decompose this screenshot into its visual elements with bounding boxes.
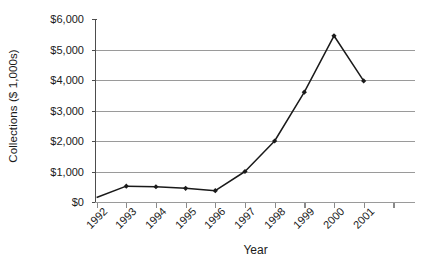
data-point-marker [183,186,188,191]
x-axis-tick-labels: 1992199319941995199619971998199920002001 [96,205,426,245]
x-axis-line [95,202,415,203]
y-axis-tick-label: $5,000 [50,44,84,56]
y-axis-title-text: Collections ($ 1,000s) [7,49,19,162]
plot-area [96,19,415,202]
y-axis-tick-label: $0 [72,196,84,208]
y-axis-tick-label: $3,000 [50,105,84,117]
line-chart: Collections ($ 1,000s) $0$1,000$2,000$3,… [0,0,437,267]
x-axis-title-text: Year [243,243,267,257]
data-point-marker [153,184,158,189]
y-axis-title: Collections ($ 1,000s) [0,0,26,212]
y-axis-tick-label: $6,000 [50,13,84,25]
data-series-collections [96,19,415,202]
data-point-marker [124,184,129,189]
y-axis-tick-label: $4,000 [50,74,84,86]
x-axis-title: Year [96,243,415,257]
series-line [97,36,364,198]
y-axis-tick-label: $1,000 [50,166,84,178]
y-axis-tick-labels: $0$1,000$2,000$3,000$4,000$5,000$6,000 [26,0,88,212]
y-axis-tick-label: $2,000 [50,135,84,147]
